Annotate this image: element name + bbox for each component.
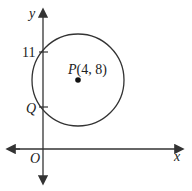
q-label: Q [26, 101, 36, 116]
point-label: P(4, 8) [67, 62, 107, 78]
coordinate-diagram: y x O 11 Q P(4, 8) [0, 0, 192, 191]
origin-label: O [30, 151, 40, 166]
y-axis-label: y [27, 6, 36, 21]
y-tick-label: 11 [22, 45, 35, 60]
x-axis-label: x [173, 149, 181, 164]
center-point [75, 77, 81, 83]
